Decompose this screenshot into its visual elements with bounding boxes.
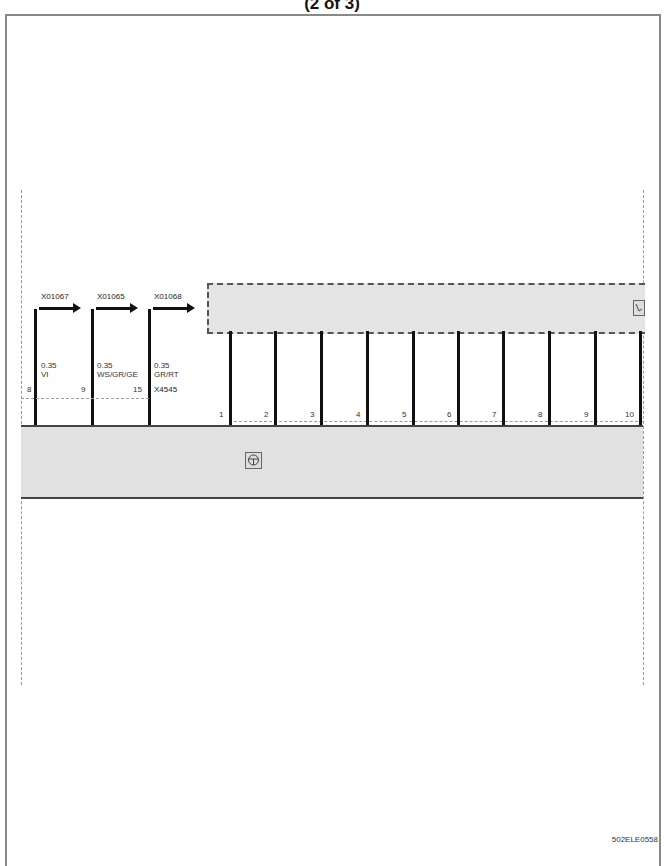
wire-pin-5 bbox=[412, 331, 415, 426]
arrow-x01067 bbox=[39, 307, 74, 310]
left-connector-dash bbox=[21, 398, 149, 399]
arrow-x01065 bbox=[96, 307, 131, 310]
wire-pin-1 bbox=[229, 331, 232, 426]
connector-label: X01065 bbox=[97, 292, 125, 301]
wire-pin-10 bbox=[639, 331, 642, 426]
upper-component-box bbox=[207, 283, 645, 334]
pin-number: 8 bbox=[27, 385, 31, 394]
page-title: (2 of 3) bbox=[0, 0, 664, 14]
component-symbol-icon bbox=[633, 300, 645, 316]
connector-id: X4545 bbox=[154, 385, 177, 394]
module-symbol-icon bbox=[245, 452, 262, 469]
wire-gauge: 0.35 bbox=[41, 361, 57, 370]
lower-module-bar bbox=[21, 425, 643, 499]
right-boundary-dash bbox=[643, 190, 644, 685]
pin-number: 1 bbox=[219, 410, 223, 419]
connector-label: X01068 bbox=[154, 292, 182, 301]
wire-pin-3 bbox=[320, 331, 323, 426]
wire-pin-7 bbox=[502, 331, 505, 426]
wire-pin-6 bbox=[457, 331, 460, 426]
pin-number: 4 bbox=[356, 410, 360, 419]
wire-pin-9 bbox=[594, 331, 597, 426]
pin-number: 9 bbox=[584, 410, 588, 419]
pin-number: 8 bbox=[538, 410, 542, 419]
wire-x01065 bbox=[91, 309, 94, 426]
pin-number: 5 bbox=[402, 410, 406, 419]
pin-number: 9 bbox=[81, 385, 85, 394]
wire-pin-4 bbox=[366, 331, 369, 426]
wire-spec: 0.35 VI bbox=[41, 361, 57, 379]
wire-pin-8 bbox=[548, 331, 551, 426]
right-connector-dash bbox=[229, 421, 643, 422]
connector-label: X01067 bbox=[41, 292, 69, 301]
wire-color: WS/GR/GE bbox=[97, 370, 138, 379]
pin-number: 2 bbox=[264, 410, 268, 419]
wire-gauge: 0.35 bbox=[154, 361, 179, 370]
wire-x01068 bbox=[148, 309, 151, 426]
wire-color: GR/RT bbox=[154, 370, 179, 379]
pin-number: 10 bbox=[625, 410, 634, 419]
wire-color: VI bbox=[41, 370, 57, 379]
pin-number: 3 bbox=[310, 410, 314, 419]
pin-number: 15 bbox=[133, 385, 142, 394]
wire-spec: 0.35 GR/RT bbox=[154, 361, 179, 379]
pin-number: 6 bbox=[447, 410, 451, 419]
figure-id: 502ELE0558 bbox=[612, 835, 658, 844]
wire-spec: 0.35 WS/GR/GE bbox=[97, 361, 138, 379]
pin-number: 7 bbox=[492, 410, 496, 419]
wire-x01067 bbox=[34, 309, 37, 426]
arrow-x01068 bbox=[153, 307, 188, 310]
wire-gauge: 0.35 bbox=[97, 361, 138, 370]
wire-pin-2 bbox=[274, 331, 277, 426]
